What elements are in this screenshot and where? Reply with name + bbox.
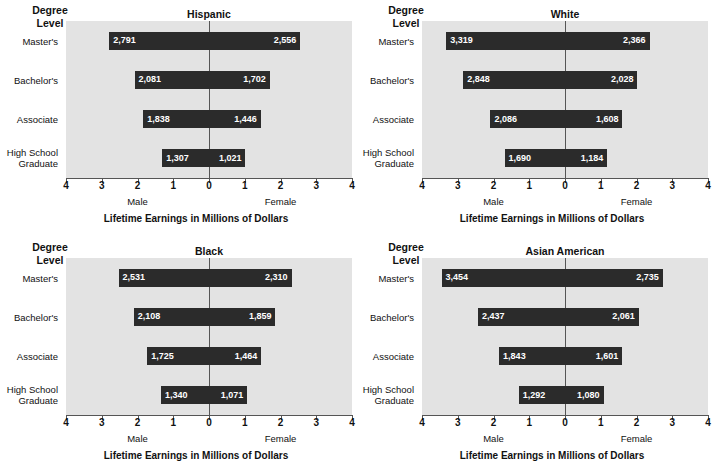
bar-associate: 1,8431,601 — [499, 347, 622, 365]
category-label-line: Bachelor's — [356, 311, 414, 322]
bar-row: 1,8381,446 — [66, 100, 352, 139]
category-label: Associate — [0, 351, 58, 362]
category-label-line: High School — [356, 384, 414, 395]
category-label: Bachelor's — [0, 74, 58, 85]
male-value-label: 1,725 — [147, 352, 178, 361]
male-value-label: 3,454 — [442, 273, 473, 282]
category-label-line: High School — [356, 147, 414, 158]
male-direction-label: Male — [108, 196, 168, 207]
female-value-label: 1,071 — [217, 391, 248, 400]
male-value-label: 1,307 — [162, 154, 193, 163]
x-axis-tick-label: 2 — [128, 180, 148, 191]
male-value-label: 2,791 — [109, 36, 140, 45]
female-direction-label: Female — [251, 196, 311, 207]
x-axis-tick-label: 3 — [662, 417, 682, 428]
male-value-label: 2,531 — [119, 273, 150, 282]
category-label: High SchoolGraduate — [356, 384, 414, 406]
x-axis-tick-label: 3 — [662, 180, 682, 191]
category-axis-labels: Master'sBachelor'sAssociateHigh SchoolGr… — [356, 258, 418, 415]
category-label-line: Bachelor's — [356, 74, 414, 85]
x-axis-tick-label: 1 — [519, 180, 539, 191]
x-axis-title: Lifetime Earnings in Millions of Dollars — [40, 213, 352, 224]
female-value-label: 1,080 — [573, 391, 604, 400]
x-axis-tick-label: 0 — [555, 417, 575, 428]
bar-row: 2,4372,061 — [422, 297, 708, 336]
x-axis-tick-label: 2 — [128, 417, 148, 428]
category-label-line: Associate — [356, 114, 414, 125]
category-label: Bachelor's — [0, 311, 58, 322]
bar-row: 3,3192,366 — [422, 21, 708, 60]
category-label: High SchoolGraduate — [0, 384, 58, 406]
female-value-label: 2,366 — [619, 36, 650, 45]
male-value-label: 2,086 — [490, 115, 521, 124]
x-axis-tick-label: 0 — [199, 180, 219, 191]
female-value-label: 2,556 — [270, 36, 301, 45]
x-axis-tick-label: 4 — [412, 180, 432, 191]
male-value-label: 1,838 — [143, 115, 174, 124]
x-axis-tick-label: 2 — [484, 417, 504, 428]
category-label-line: High School — [0, 147, 58, 158]
bar-bachelor-s: 2,4372,061 — [478, 308, 639, 326]
x-axis-tick-label: 2 — [271, 417, 291, 428]
x-axis-tick-label: 3 — [92, 417, 112, 428]
female-value-label: 2,061 — [608, 312, 639, 321]
x-axis-tick-label: 2 — [627, 417, 647, 428]
female-direction-label: Female — [251, 433, 311, 444]
category-label-line: Graduate — [0, 158, 58, 169]
bar-row: 2,7912,556 — [66, 21, 352, 60]
male-value-label: 1,292 — [519, 391, 550, 400]
male-direction-label: Male — [108, 433, 168, 444]
x-axis-tick-label: 0 — [555, 180, 575, 191]
male-value-label: 1,690 — [505, 154, 536, 163]
plot-area: 3,3192,3662,8482,0282,0861,6081,6901,184 — [422, 21, 708, 178]
category-label-line: Graduate — [356, 395, 414, 406]
chart-panel-asian-american: DegreeLevelAsian American3,4542,7352,437… — [356, 237, 713, 474]
x-axis-tick-label: 1 — [163, 417, 183, 428]
male-value-label: 1,843 — [499, 352, 530, 361]
chart-panel-black: DegreeLevelBlack2,5312,3102,1081,8591,72… — [0, 237, 356, 474]
category-label-line: Graduate — [0, 395, 58, 406]
category-label-line: Master's — [356, 35, 414, 46]
bar-master-s: 2,5312,310 — [119, 269, 292, 287]
category-label-line: Associate — [0, 114, 58, 125]
bar-associate: 1,8381,446 — [143, 110, 260, 128]
category-label-line: Bachelor's — [0, 311, 58, 322]
male-value-label: 2,848 — [463, 75, 494, 84]
female-value-label: 2,310 — [261, 273, 292, 282]
bar-row: 1,7251,464 — [66, 337, 352, 376]
x-axis-tick-label: 2 — [484, 180, 504, 191]
x-axis-tick-label: 4 — [412, 417, 432, 428]
plot-area: 2,7912,5562,0811,7021,8381,4461,3071,021 — [66, 21, 352, 178]
female-value-label: 2,735 — [632, 273, 663, 282]
bar-row: 1,2921,080 — [422, 376, 708, 415]
category-label: Bachelor's — [356, 74, 414, 85]
chart-figure-grid: DegreeLevelHispanic2,7912,5562,0811,7021… — [0, 0, 713, 474]
bar-high-school-graduate: 1,3401,071 — [161, 386, 247, 404]
bar-high-school-graduate: 1,2921,080 — [519, 386, 604, 404]
female-value-label: 1,702 — [239, 75, 270, 84]
female-value-label: 2,028 — [607, 75, 638, 84]
x-axis-tick-label: 4 — [698, 417, 713, 428]
x-axis-tick-label: 4 — [698, 180, 713, 191]
x-axis-tick-label: 1 — [591, 180, 611, 191]
chart-panel-white: DegreeLevelWhite3,3192,3662,8482,0282,08… — [356, 0, 713, 237]
bar-row: 2,8482,028 — [422, 60, 708, 99]
bar-row: 2,0811,702 — [66, 60, 352, 99]
category-label: High SchoolGraduate — [356, 147, 414, 169]
x-axis-tick-label: 1 — [519, 417, 539, 428]
category-label-line: Associate — [0, 351, 58, 362]
bar-bachelor-s: 2,0811,702 — [135, 71, 270, 89]
male-direction-label: Male — [464, 196, 524, 207]
chart-panel-hispanic: DegreeLevelHispanic2,7912,5562,0811,7021… — [0, 0, 356, 237]
category-label: Master's — [0, 35, 58, 46]
category-label: Bachelor's — [356, 311, 414, 322]
x-axis-tick-label: 2 — [271, 180, 291, 191]
male-value-label: 1,340 — [161, 391, 192, 400]
bar-master-s: 3,4542,735 — [442, 269, 663, 287]
x-axis-line — [422, 178, 708, 179]
bar-high-school-graduate: 1,3071,021 — [162, 149, 245, 167]
category-label-line: Master's — [0, 35, 58, 46]
bar-master-s: 2,7912,556 — [109, 32, 300, 50]
category-label-line: Associate — [356, 351, 414, 362]
female-value-label: 1,464 — [231, 352, 262, 361]
